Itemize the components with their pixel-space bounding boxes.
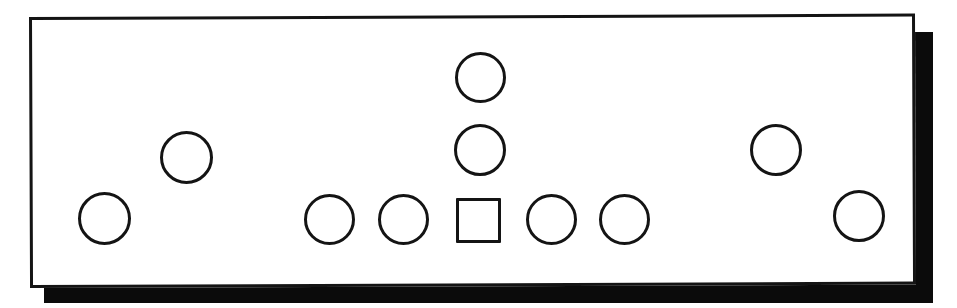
circle-port-center-right-1[interactable] [526,194,577,245]
circle-port-right-outer[interactable] [833,190,885,242]
circle-port-right-upper[interactable] [750,124,802,176]
square-port-center[interactable] [456,198,501,243]
circle-port-center-left-2[interactable] [304,194,355,245]
circle-port-left-upper[interactable] [160,131,213,184]
circle-port-center-top[interactable] [455,52,506,103]
circle-port-center-left-1[interactable] [378,194,429,245]
figure-canvas [0,0,957,308]
circle-port-left-outer[interactable] [78,192,131,245]
circle-port-center-middle[interactable] [454,124,506,176]
circle-port-center-right-2[interactable] [599,194,650,245]
